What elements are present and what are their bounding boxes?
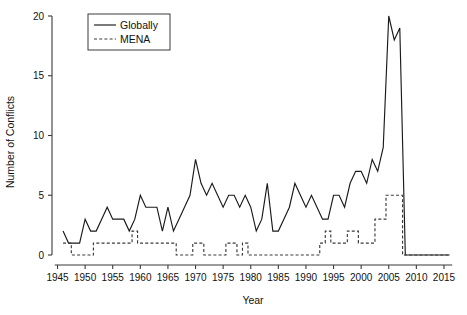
x-axis-title: Year [242,294,264,306]
legend-label-globally: Globally [120,19,159,31]
x-tick-label: 1965 [157,272,180,283]
chart-figure: 05101520 1945195019551960196519701975198… [0,0,467,315]
y-axis-tick-labels: 05101520 [33,11,45,261]
x-tick-label: 2010 [405,272,428,283]
y-tick-label: 5 [38,190,44,201]
y-axis-title: Number of Conflicts [4,96,16,188]
x-tick-label: 1960 [129,272,152,283]
conflicts-line-chart: 05101520 1945195019551960196519701975198… [0,0,467,315]
x-tick-label: 1975 [212,272,235,283]
chart-legend: Globally MENA [88,14,170,50]
x-tick-label: 1970 [184,272,207,283]
y-tick-label: 20 [33,11,45,22]
y-tick-label: 15 [33,70,45,81]
x-axis-tick-labels: 1945195019551960196519701975198019851990… [46,272,455,283]
x-tick-label: 1990 [295,272,318,283]
x-tick-label: 1950 [74,272,97,283]
x-tick-label: 2015 [433,272,456,283]
y-tick-label: 10 [33,130,45,141]
x-tick-label: 1985 [267,272,290,283]
series-line-mena [63,195,449,255]
y-axis-ticks [48,16,52,255]
x-axis-ticks [58,265,444,269]
series-line-globally [63,16,449,255]
y-tick-label: 0 [38,250,44,261]
x-tick-label: 2000 [350,272,373,283]
legend-label-mena: MENA [120,33,150,45]
x-tick-label: 1945 [46,272,69,283]
x-tick-label: 1980 [240,272,263,283]
plot-area: 05101520 1945195019551960196519701975198… [33,11,456,284]
x-tick-label: 1995 [322,272,345,283]
x-tick-label: 1955 [102,272,125,283]
x-tick-label: 2005 [378,272,401,283]
